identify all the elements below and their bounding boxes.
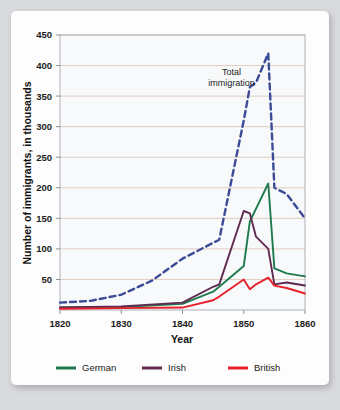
y-tick-label-200: 200 (36, 182, 52, 193)
annotation-line-1: Total (222, 67, 241, 77)
y-axis-title: Number of immigrants, in thousands (21, 81, 33, 264)
chart-card: 50100150200250300350400450 1820183018401… (11, 11, 329, 385)
x-tick-label-1820: 1820 (49, 318, 70, 329)
chart-legend: GermanIrishBritish (56, 362, 280, 373)
y-axis-tick-marks (56, 35, 60, 279)
legend-label-british: British (254, 362, 280, 373)
y-tick-label-350: 350 (36, 91, 52, 102)
legend-label-irish: Irish (168, 362, 186, 373)
y-tick-label-400: 400 (36, 60, 52, 71)
x-tick-label-1850: 1850 (233, 318, 254, 329)
y-tick-label-250: 250 (36, 152, 52, 163)
annotation-line-2: immigration (208, 78, 255, 88)
legend-label-german: German (82, 362, 116, 373)
y-axis-tick-labels: 50100150200250300350400450 (36, 29, 52, 284)
y-tick-label-450: 450 (36, 29, 52, 40)
x-axis-title: Year (171, 333, 193, 345)
x-tick-label-1830: 1830 (111, 318, 132, 329)
y-tick-label-100: 100 (36, 243, 52, 254)
y-tick-label-300: 300 (36, 121, 52, 132)
y-tick-label-150: 150 (36, 213, 52, 224)
x-tick-label-1840: 1840 (172, 318, 193, 329)
x-axis-tick-marks (60, 310, 305, 314)
y-tick-label-50: 50 (41, 274, 52, 285)
x-tick-label-1860: 1860 (294, 318, 315, 329)
immigration-line-chart: 50100150200250300350400450 1820183018401… (11, 11, 329, 385)
x-axis-tick-labels: 18201830184018501860 (49, 318, 315, 329)
